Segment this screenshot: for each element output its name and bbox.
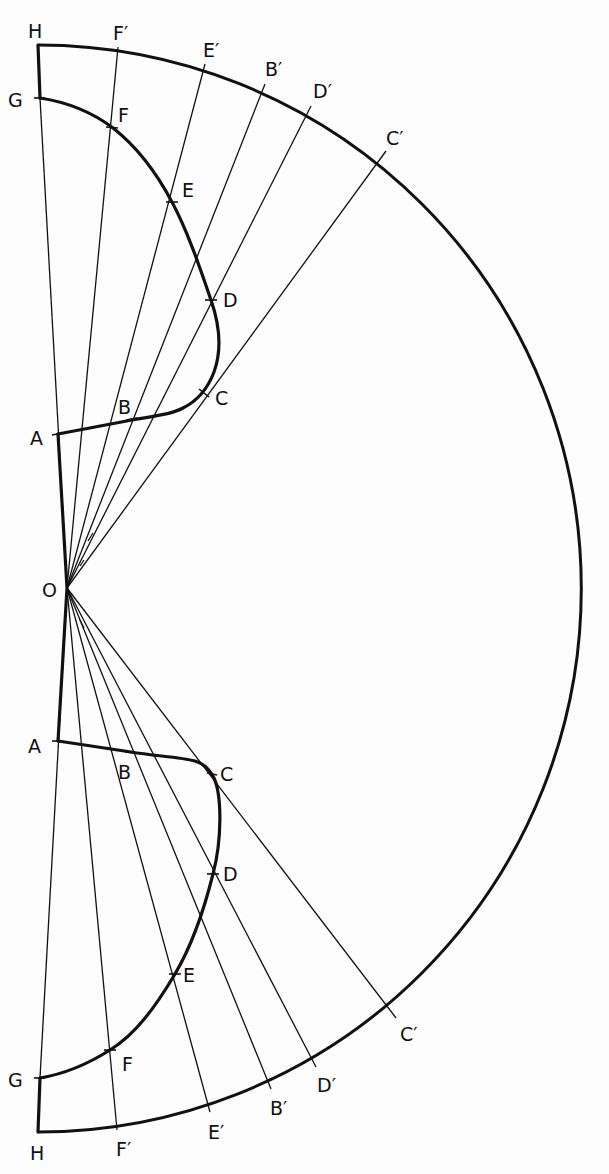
ray-O-B-prime (67, 84, 265, 588)
label-B-prime-upper: B′ (265, 58, 282, 80)
lower-radial-lines (40, 588, 396, 1130)
label-D-upper: D (223, 289, 238, 311)
upper-profile-curve (40, 98, 219, 434)
label-A-lower: A (28, 735, 41, 757)
label-G-upper: G (8, 89, 23, 111)
label-H-lower: H (30, 1142, 44, 1164)
construction-diagram: O H G F E D C B A F′ E′ B′ D′ C′ A B C D… (0, 0, 609, 1174)
construction-mark (80, 620, 84, 628)
label-G-lower: G (8, 1069, 23, 1091)
label-F-prime-upper: F′ (113, 22, 128, 44)
ray-O-C-prime-lower (67, 588, 396, 1018)
lower-profile-curve (40, 741, 220, 1078)
ray-O-C-prime (67, 151, 386, 588)
label-F-prime-lower: F′ (116, 1138, 131, 1160)
diagram-canvas: O H G F E D C B A F′ E′ B′ D′ C′ A B C D… (0, 0, 609, 1174)
label-F-upper: F (118, 104, 129, 126)
label-E-lower: E (183, 964, 195, 986)
ray-O-E-prime-lower (67, 588, 210, 1112)
label-D-prime-upper: D′ (313, 80, 332, 102)
ray-O-E-prime (67, 64, 205, 588)
label-C-prime-upper: C′ (386, 127, 404, 149)
label-C-upper: C (215, 387, 228, 409)
label-D-lower: D (223, 863, 238, 885)
label-B-upper: B (118, 396, 131, 418)
label-C-prime-lower: C′ (400, 1023, 418, 1045)
label-B-lower: B (118, 761, 131, 783)
ray-O-B-prime-lower (67, 588, 271, 1089)
label-B-prime-lower: B′ (270, 1097, 287, 1119)
label-H-upper: H (28, 20, 42, 42)
label-E-prime-lower: E′ (208, 1121, 224, 1143)
label-E-prime-upper: E′ (203, 39, 219, 61)
upper-radial-lines (40, 47, 386, 588)
label-F-lower: F (122, 1053, 133, 1075)
edge-A-O-A (58, 434, 67, 741)
edge-H-G-upper (38, 45, 40, 98)
label-A-upper: A (30, 427, 43, 449)
label-D-prime-lower: D′ (317, 1074, 336, 1096)
label-O: O (42, 579, 57, 601)
outer-semicircle-arc (38, 45, 581, 1132)
label-C-lower: C (220, 763, 233, 785)
edge-G-H-lower (38, 1078, 40, 1132)
label-E-upper: E (182, 179, 194, 201)
